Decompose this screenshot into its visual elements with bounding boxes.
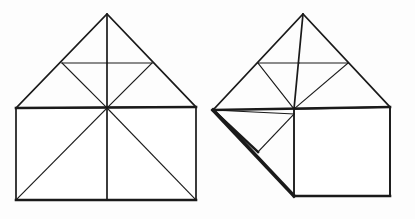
right-square-face	[294, 107, 390, 196]
left-square-face	[16, 107, 196, 200]
figure-canvas	[0, 0, 415, 219]
